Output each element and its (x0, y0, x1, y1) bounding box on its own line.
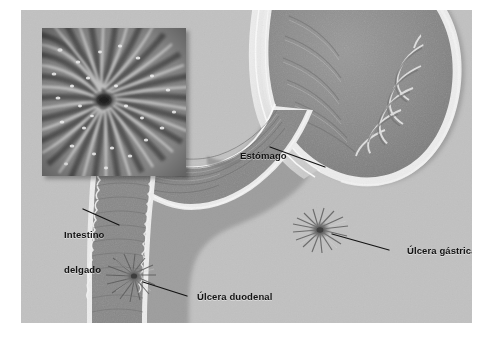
label-intestino-line2: delgado (64, 264, 104, 276)
label-intestino-line1: Intestino (64, 229, 104, 241)
label-estomago: Estómago (240, 150, 287, 162)
label-ulcera-gastrica: Úlcera gástrica (407, 245, 472, 257)
figure-root: Estómago Intestino delgado Úlcera gástri… (0, 0, 486, 341)
illustration-plate: Estómago Intestino delgado Úlcera gástri… (21, 10, 472, 323)
gastric-mucosa-closeup-image (42, 28, 186, 176)
label-ulcera-duodenal: Úlcera duodenal (197, 291, 272, 303)
label-intestino-delgado: Intestino delgado (64, 206, 104, 298)
gastric-mucosa-inset (42, 28, 186, 176)
